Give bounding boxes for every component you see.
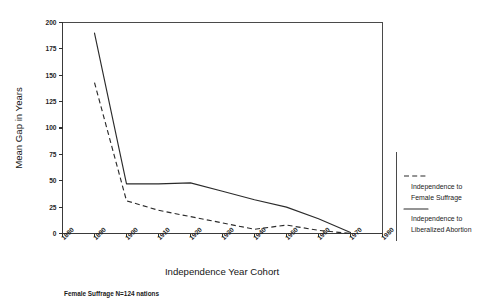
y-tick-label: 150 <box>45 72 56 79</box>
y-tick-label: 50 <box>49 177 57 184</box>
y-tick-label: 0 <box>53 230 57 237</box>
series-line-female-suffrage <box>95 83 351 234</box>
chart-footnote: Female Suffrage N=124 nations <box>64 290 159 298</box>
y-tick-label: 175 <box>45 45 56 52</box>
data-series-group <box>95 33 351 233</box>
legend-label-female-suffrage-line1: Independence to <box>411 183 463 191</box>
chart-figure: 0255075100125150175200 18801890190019101… <box>0 0 499 308</box>
y-tick-label: 75 <box>49 151 57 158</box>
x-axis-title: Independence Year Cohort <box>165 266 279 277</box>
y-tick-label: 200 <box>45 19 56 26</box>
y-tick-label: 125 <box>45 98 56 105</box>
y-axis-title: Mean Gap in Years <box>13 87 24 169</box>
legend-label-liberalized-abortion-line1: Independence to <box>411 215 463 223</box>
y-tick-label: 100 <box>45 124 56 131</box>
legend: Independence to Female Suffrage Independ… <box>397 152 472 241</box>
series-line-liberalized-abortion <box>95 33 351 232</box>
legend-label-female-suffrage-line2: Female Suffrage <box>411 194 462 202</box>
y-tick-label: 25 <box>49 204 57 211</box>
y-axis-ticks: 0255075100125150175200 <box>45 19 62 237</box>
legend-label-liberalized-abortion-line2: Liberalized Abortion <box>411 226 472 233</box>
plot-frame <box>62 22 383 234</box>
